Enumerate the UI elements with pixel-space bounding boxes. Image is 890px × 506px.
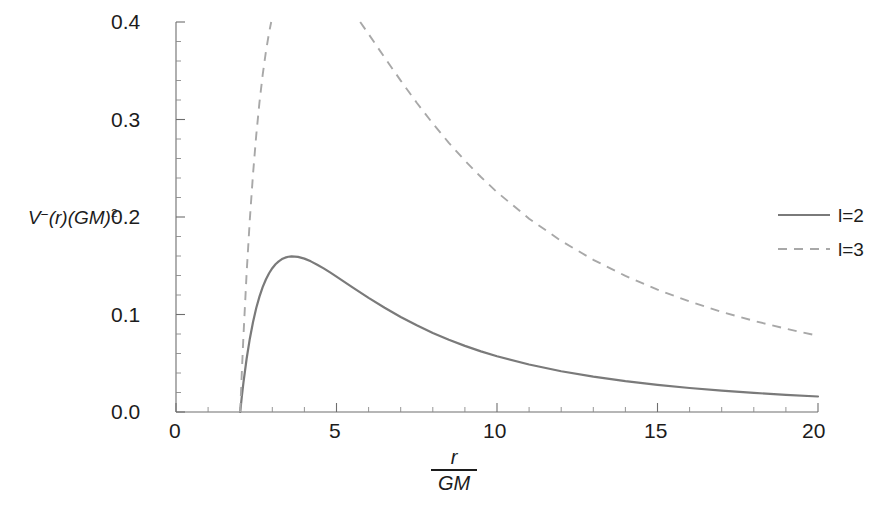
chart-figure: 0.4 0.3 0.2 0.1 0.0 0 5 10 15 20 V−(r)(G… [0,0,890,506]
legend-label-l3: l=3 [838,239,864,261]
curve-l2 [240,256,818,412]
x-tick-label-0: 0 [169,419,181,443]
y-axis-label-gm: (GM) [68,207,111,228]
y-tick-label-0.4: 0.4 [111,10,140,34]
legend-label-l2: l=2 [838,205,864,227]
y-axis-label-exponent: 2 [111,206,118,219]
y-axis-label-v: V [28,207,41,228]
y-axis-label: V−(r)(GM)2 [28,206,117,229]
x-tick-label-5: 5 [329,419,341,443]
x-tick-label-10: 10 [483,419,506,443]
x-axis-label-numerator: r [424,447,484,468]
curves-group [240,22,818,412]
x-axis-label: r GM [424,447,484,493]
y-tick-label-0.1: 0.1 [111,303,140,327]
plot-canvas [0,0,890,506]
fraction-bar [431,469,477,471]
y-tick-label-0.3: 0.3 [111,108,140,132]
y-axis-label-of-r: (r) [49,207,68,228]
legend-line-samples [778,215,830,249]
axes-group [176,22,818,412]
x-tick-label-20: 20 [802,419,825,443]
y-axis-label-minus: − [41,207,49,222]
y-tick-label-0.0: 0.0 [111,400,140,424]
x-tick-label-15: 15 [644,419,667,443]
x-axis-label-denominator: GM [424,473,484,493]
curve-l3 [240,22,818,412]
